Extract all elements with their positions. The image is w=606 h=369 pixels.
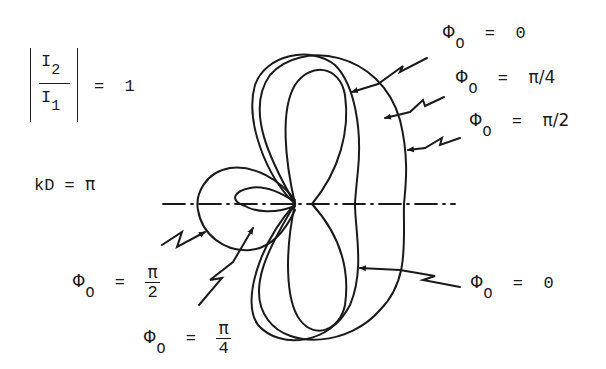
label-upper-phi-pi4: ΦO = π/4 (455, 67, 555, 88)
ratio-denominator: I1 (41, 88, 60, 107)
leader-upper-pi4 (385, 97, 444, 118)
current-ratio-abs: I2 I1 (30, 48, 78, 122)
label-lower-phi-pi4: ΦO = π 4 (143, 318, 231, 359)
fraction-bar (39, 83, 70, 84)
label-lower-phi-zero: ΦO = 0 (470, 272, 554, 293)
leader-upper-zero (352, 58, 427, 92)
leader-upper-pi2 (408, 138, 460, 150)
curve-phi-zero-upper (286, 70, 347, 204)
fraction-pi-over-4: π 4 (216, 318, 230, 359)
ratio-numerator: I2 (41, 52, 60, 71)
label-upper-phi-zero: ΦO = 0 (442, 22, 526, 43)
leader-lower-pi2 (162, 232, 205, 247)
leader-lower-zero (360, 268, 460, 287)
label-lower-phi-pi2: ΦO = π 2 (72, 262, 160, 303)
label-upper-phi-pi2: ΦO = π/2 (469, 110, 569, 131)
curve-phi-pi-over-2 (259, 55, 406, 339)
leader-lower-pi4 (199, 228, 253, 305)
curve-phi-pi-over-4 (252, 55, 360, 341)
radiation-pattern-diagram: I2 I1 = 1 kD = π ΦO = 0 ΦO = π/4 ΦO = π/… (0, 0, 606, 369)
ratio-value: = 1 (94, 77, 135, 96)
kd-expression: kD = π (34, 174, 95, 195)
fraction-pi-over-2: π 2 (145, 262, 159, 303)
curve-phi-zero-lower (288, 204, 346, 331)
